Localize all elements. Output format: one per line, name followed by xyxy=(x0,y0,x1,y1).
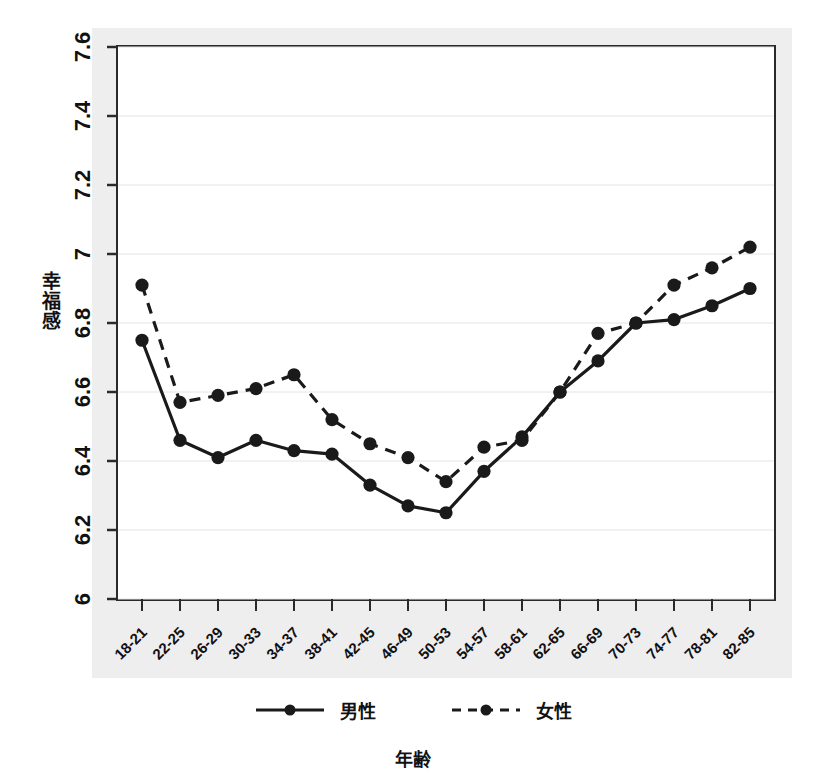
data-point-marker xyxy=(211,389,224,402)
data-point-marker xyxy=(477,465,490,478)
data-point-marker xyxy=(629,316,642,329)
data-point-marker xyxy=(325,413,338,426)
legend-label-male: 男性 xyxy=(340,697,376,723)
data-point-marker xyxy=(325,448,338,461)
x-axis-title: 年齢 xyxy=(0,745,826,771)
data-point-marker xyxy=(705,261,718,274)
data-point-marker xyxy=(249,434,262,447)
data-point-marker xyxy=(401,451,414,464)
series-line-female xyxy=(142,247,750,482)
legend-item-male[interactable]: 男性 xyxy=(254,697,376,723)
legend-label-female: 女性 xyxy=(536,697,572,723)
data-point-marker xyxy=(287,368,300,381)
data-point-marker xyxy=(363,437,376,450)
data-point-marker xyxy=(401,499,414,512)
data-point-marker xyxy=(515,434,528,447)
data-point-marker xyxy=(553,385,566,398)
data-point-marker xyxy=(439,506,452,519)
legend-swatch-dashed-icon xyxy=(450,702,522,718)
chart-figure: 幸福感 66.26.46.66.877.27.47.6 18-2122-2526… xyxy=(0,0,826,783)
data-point-marker xyxy=(477,441,490,454)
data-point-marker xyxy=(363,479,376,492)
data-point-marker xyxy=(705,299,718,312)
legend-item-female[interactable]: 女性 xyxy=(450,697,572,723)
data-point-marker xyxy=(667,278,680,291)
data-point-marker xyxy=(743,241,756,254)
data-point-marker xyxy=(667,313,680,326)
legend-swatch-solid-icon xyxy=(254,702,326,718)
data-point-marker xyxy=(439,475,452,488)
chart-plot xyxy=(0,0,826,783)
data-point-marker xyxy=(743,282,756,295)
data-point-marker xyxy=(591,327,604,340)
chart-legend: 男性 女性 xyxy=(0,697,826,723)
data-point-marker xyxy=(135,334,148,347)
data-point-marker xyxy=(135,278,148,291)
data-point-marker xyxy=(249,382,262,395)
data-point-marker xyxy=(173,396,186,409)
data-point-marker xyxy=(211,451,224,464)
data-point-marker xyxy=(591,354,604,367)
data-point-marker xyxy=(173,434,186,447)
data-point-marker xyxy=(287,444,300,457)
